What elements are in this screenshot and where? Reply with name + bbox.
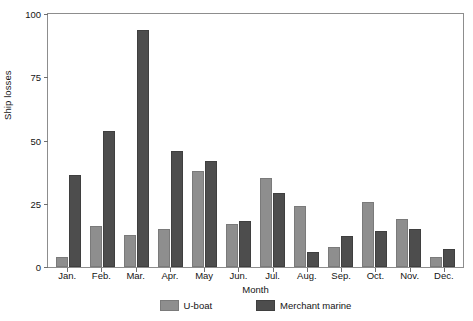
bar-uboat-jan xyxy=(56,257,68,267)
y-tick-label: 50 xyxy=(30,135,48,146)
x-tick-label-nov: Nov. xyxy=(393,270,427,281)
bar-merchant-jan xyxy=(69,175,81,267)
bar-uboat-mar xyxy=(124,235,136,267)
y-axis-title: Ship losses xyxy=(2,0,13,120)
bar-uboat-jul xyxy=(260,178,272,267)
bars-layer xyxy=(48,14,463,267)
bar-group xyxy=(255,14,289,267)
legend-label: U-boat xyxy=(184,300,213,311)
bar-merchant-nov xyxy=(409,229,421,267)
bar-group xyxy=(426,14,460,267)
legend-entry-merchant-marine: Merchant marine xyxy=(256,300,351,311)
bar-uboat-oct xyxy=(362,202,374,267)
bar-uboat-jun xyxy=(226,224,238,267)
bar-merchant-feb xyxy=(103,131,115,267)
x-tick-label-jul: Jul. xyxy=(256,270,290,281)
bar-uboat-may xyxy=(192,171,204,267)
bar-uboat-apr xyxy=(158,229,170,267)
bar-merchant-apr xyxy=(171,151,183,267)
x-tick-label-dec: Dec. xyxy=(427,270,461,281)
bar-uboat-aug xyxy=(294,206,306,267)
x-tick-label-mar: Mar. xyxy=(119,270,153,281)
ship-losses-bar-chart: Ship losses 0255075100 Jan.Feb.Mar.Apr.M… xyxy=(0,0,473,321)
bar-merchant-jul xyxy=(273,193,285,267)
bar-uboat-feb xyxy=(90,226,102,267)
chart-legend: U-boatMerchant marine xyxy=(47,300,464,311)
legend-swatch-icon xyxy=(160,300,179,311)
bar-merchant-dec xyxy=(443,249,455,267)
x-tick-label-jan: Jan. xyxy=(50,270,84,281)
bar-group xyxy=(221,14,255,267)
legend-swatch-icon xyxy=(256,300,275,311)
bar-group xyxy=(358,14,392,267)
bar-merchant-jun xyxy=(239,221,251,267)
bar-group xyxy=(187,14,221,267)
bar-uboat-nov xyxy=(396,219,408,267)
y-tick-label: 25 xyxy=(30,198,48,209)
bar-group xyxy=(324,14,358,267)
bar-group xyxy=(290,14,324,267)
bar-group xyxy=(153,14,187,267)
bar-group xyxy=(119,14,153,267)
bar-group xyxy=(85,14,119,267)
x-axis-title: Month xyxy=(47,284,464,295)
x-tick-label-oct: Oct. xyxy=(358,270,392,281)
x-tick-label-sep: Sep. xyxy=(324,270,358,281)
bar-merchant-mar xyxy=(137,30,149,267)
x-tick-label-jun: Jun. xyxy=(221,270,255,281)
x-tick-label-may: May xyxy=(187,270,221,281)
bar-merchant-sep xyxy=(341,236,353,267)
plot-area: 0255075100 xyxy=(47,13,464,268)
legend-entry-uboat: U-boat xyxy=(160,300,213,311)
bar-uboat-sep xyxy=(328,247,340,267)
y-tick-label: 75 xyxy=(30,72,48,83)
bar-merchant-aug xyxy=(307,252,319,267)
bar-group xyxy=(51,14,85,267)
bar-merchant-oct xyxy=(375,231,387,267)
x-tick-label-aug: Aug. xyxy=(290,270,324,281)
x-axis-labels: Jan.Feb.Mar.Apr.MayJun.Jul.Aug.Sep.Oct.N… xyxy=(47,270,464,281)
legend-label: Merchant marine xyxy=(280,300,351,311)
x-tick-label-feb: Feb. xyxy=(84,270,118,281)
y-tick-label: 100 xyxy=(25,9,48,20)
bar-group xyxy=(392,14,426,267)
x-tick-label-apr: Apr. xyxy=(153,270,187,281)
bar-merchant-may xyxy=(205,161,217,267)
bar-uboat-dec xyxy=(430,257,442,267)
